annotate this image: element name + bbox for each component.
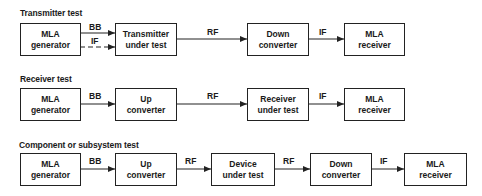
signal-label-rf: RF [207,27,218,37]
signal-label-rf: RF [283,156,294,166]
signal-label-rf: RF [185,156,196,166]
block-device-under-test: Device under test [211,153,275,186]
block-down-converter: Down converter [247,23,309,56]
section-title-receiver-test: Receiver test [20,74,72,84]
signal-label-rf: RF [207,91,218,101]
signal-label-if: IF [380,156,388,166]
block-label: receiver [358,40,391,51]
block-label: receiver [358,105,391,116]
block-label: generator [31,105,70,116]
block-mla-receiver: MLA receiver [344,88,405,121]
signal-label-bb: BB [89,91,101,101]
block-mla-receiver: MLA receiver [344,23,405,56]
signal-label-bb: BB [89,156,101,166]
block-up-converter: Up converter [115,153,177,186]
block-label: MLA [365,94,383,105]
block-label: generator [31,170,70,181]
block-label: MLA [365,29,383,40]
signal-label-bb: BB [89,22,101,32]
block-down-converter: Down converter [310,153,372,186]
section-title-component-test: Component or subsystem test [19,140,139,150]
block-label: receiver [419,170,452,181]
block-label: under test [222,170,263,181]
block-label: MLA [41,159,59,170]
block-label: converter [322,170,361,181]
block-label: Up [140,94,151,105]
block-mla-generator: MLA generator [20,23,81,56]
block-label: Down [266,29,289,40]
block-label: MLA [426,159,444,170]
signal-label-if: IF [91,36,99,46]
signal-label-if: IF [319,91,327,101]
block-label: converter [127,170,166,181]
signal-label-if: IF [319,27,327,37]
block-label: under test [125,40,166,51]
block-label: Up [140,159,151,170]
block-up-converter: Up converter [115,88,177,121]
block-label: Down [329,159,352,170]
block-label: generator [31,40,70,51]
section-title-transmitter-test: Transmitter test [20,8,82,18]
block-label: MLA [41,29,59,40]
block-mla-generator: MLA generator [20,88,81,121]
block-label: converter [127,105,166,116]
block-transmitter-under-test: Transmitter under test [115,23,177,56]
block-label: converter [259,40,298,51]
block-label: Receiver [260,94,295,105]
block-mla-receiver: MLA receiver [404,153,467,186]
block-label: Transmitter [123,29,169,40]
block-label: Device [229,159,256,170]
block-label: MLA [41,94,59,105]
block-mla-generator: MLA generator [20,153,81,186]
block-label: under test [257,105,298,116]
block-receiver-under-test: Receiver under test [247,88,309,121]
